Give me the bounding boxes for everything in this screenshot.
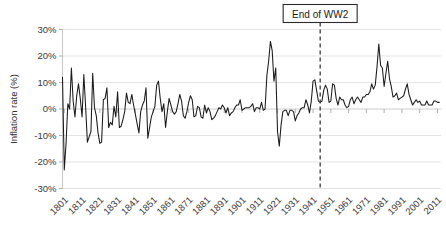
x-tick-label: 1901 <box>225 194 248 217</box>
y-tick-label: -10% <box>34 130 57 141</box>
x-tick-label: 1851 <box>136 194 159 217</box>
x-tick-label: 2001 <box>403 194 426 217</box>
x-tick-label: 1971 <box>350 194 373 217</box>
x-axis-ticks: 1801181118211831184118511861187118811891… <box>47 109 443 217</box>
x-tick-label: 1891 <box>207 194 230 217</box>
x-tick-label: 1821 <box>83 194 106 217</box>
x-tick-label: 1861 <box>154 194 177 217</box>
chart-canvas: 30%20%10%0%-10%-20%-30%Inflation rate (%… <box>0 0 446 231</box>
y-tick-label: 0% <box>43 103 57 114</box>
x-tick-label: 1931 <box>278 194 301 217</box>
y-axis-ticks: 30%20%10%0%-10%-20%-30% <box>34 24 62 194</box>
x-tick-label: 1991 <box>385 194 408 217</box>
y-tick-label: 30% <box>37 24 57 35</box>
x-tick-label: 1941 <box>296 194 319 217</box>
x-tick-label: 1801 <box>47 194 70 217</box>
x-tick-label: 1811 <box>66 194 88 216</box>
y-tick-label: 10% <box>37 77 57 88</box>
x-tick-label: 1841 <box>119 194 142 217</box>
annotation-end-of-ww2: End of WW2 <box>283 5 357 189</box>
x-tick-label: 1981 <box>367 194 390 217</box>
x-tick-label: 1881 <box>190 194 213 217</box>
x-tick-label: 2011 <box>421 194 443 216</box>
x-tick-label: 1961 <box>332 194 355 217</box>
x-tick-label: 1871 <box>172 194 195 217</box>
inflation-series-line <box>63 41 440 170</box>
x-tick-label: 1921 <box>261 194 284 217</box>
y-tick-label: -20% <box>34 156 57 167</box>
x-tick-label: 1831 <box>101 194 124 217</box>
event-label-text: End of WW2 <box>292 9 349 20</box>
y-axis-title: Inflation rate (%) <box>8 74 19 144</box>
y-tick-label: 20% <box>37 50 57 61</box>
y-tick-label: -30% <box>34 183 57 194</box>
inflation-rate-chart: 30%20%10%0%-10%-20%-30%Inflation rate (%… <box>0 0 446 231</box>
x-tick-label: 1911 <box>243 194 265 216</box>
x-tick-label: 1951 <box>314 194 337 217</box>
